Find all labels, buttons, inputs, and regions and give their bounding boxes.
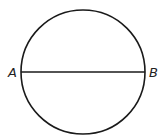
circle-diagram: A B	[0, 0, 164, 140]
point-b-label: B	[149, 65, 158, 80]
point-a-label: A	[7, 65, 17, 80]
